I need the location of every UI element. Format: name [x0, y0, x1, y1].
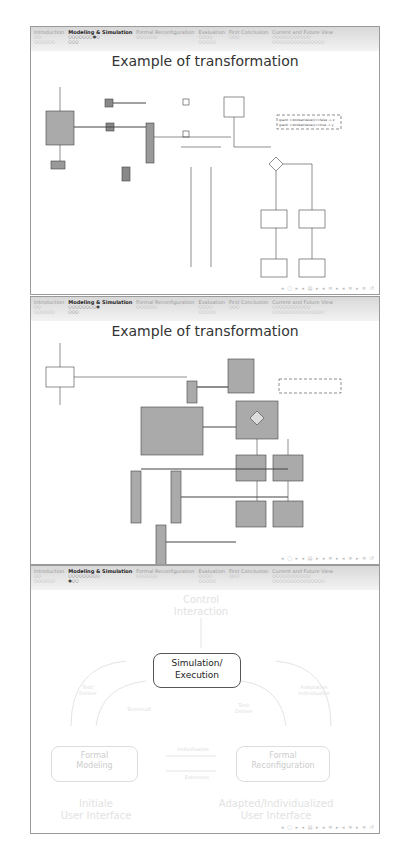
formal-modeling-node: Formal Modeling [51, 746, 138, 782]
beamer-navigation-controls[interactable]: ◂ ▢ ▸ ◂ ▤ ▸ ◂ ≡ ▸ ◂ ≡ ▸ ≡ ↺ [281, 555, 375, 561]
slide-2: Introduction○○○○○○○○ Modeling & Simulati… [30, 296, 380, 565]
initial-ui-label: Initiale User Interface [46, 798, 146, 822]
test-deliver-left-label: Test/ Deliver [73, 684, 103, 696]
svg-text:guard: x.booleanValue()==false: guard: x.booleanValue()==false -> z; [279, 118, 335, 122]
simulation-execution-node: Simulation/ Execution [153, 653, 241, 688]
adaptation-label: Adaptation Individualize [289, 684, 339, 696]
petri-net-diagram-highlighted [31, 297, 380, 565]
individualize-label: Individualize [171, 746, 215, 752]
slide-3: Introduction○○○○○○○○ Modeling & Simulati… [30, 565, 380, 834]
control-interaction-label: Control Interaction [151, 594, 251, 618]
adapted-ui-label: Adapted/Individualized User Interface [211, 798, 341, 822]
slide-1: Introduction○○○○○○○○ Modeling & Simulati… [30, 26, 380, 295]
extension-label: Extension [179, 774, 215, 780]
beamer-navigation-controls[interactable]: ◂ ▢ ▸ ◂ ▤ ▸ ◂ ≡ ▸ ◂ ≡ ▸ ≡ ↺ [281, 824, 375, 830]
test-deliver-right-label: Test/ Deliver [229, 702, 259, 714]
svg-text:guard: x.booleanValue()==true: guard: x.booleanValue()==true -> y; [279, 123, 334, 127]
formal-reconfiguration-node: Formal Reconfiguration [236, 746, 330, 782]
beamer-navigation-controls[interactable]: ◂ ▢ ▸ ◂ ▤ ▸ ◂ ≡ ▸ ◂ ≡ ▸ ≡ ↺ [281, 285, 375, 291]
petri-net-diagram: guard: x.booleanValue()==false -> z; gua… [31, 27, 380, 295]
testresult-label: Testresult [119, 706, 159, 712]
